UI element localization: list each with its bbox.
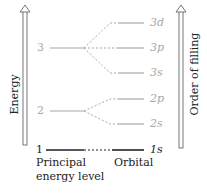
caption-principal: Principal [36, 157, 86, 168]
diagram-lines [0, 0, 207, 194]
orbital-2s: 2s [150, 118, 163, 129]
caption-orbital: Orbital [114, 157, 153, 168]
principal-level-1: 1 [36, 144, 43, 155]
principal-level-2: 2 [37, 105, 44, 116]
principal-level-3: 3 [37, 42, 44, 53]
level-2-lines [50, 99, 144, 124]
energy-axis-label: Energy [9, 75, 20, 115]
caption-energy-level: energy level [36, 171, 104, 182]
orbital-1s: 1s [150, 144, 163, 155]
level-3-lines [50, 23, 144, 73]
orbital-3s: 3s [150, 67, 163, 78]
orbital-3p: 3p [150, 42, 164, 53]
order-of-filling-arrow-icon [176, 5, 186, 148]
energy-arrow-icon [20, 5, 30, 145]
energy-level-diagram: Energy Order of filling 3 2 1 3d 3p 3s 2… [0, 0, 207, 194]
orbital-2p: 2p [150, 93, 164, 104]
orbital-3d: 3d [150, 17, 164, 28]
order-of-filling-label: Order of filling [189, 36, 200, 116]
